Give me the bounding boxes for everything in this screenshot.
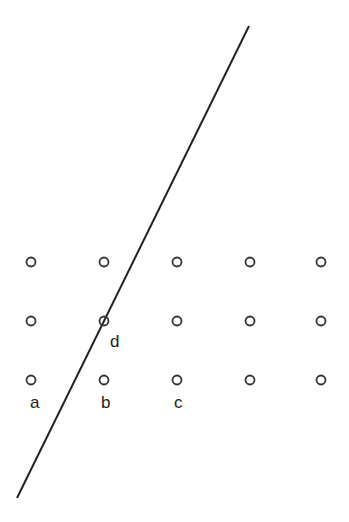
- point-grid: [27, 258, 326, 385]
- grid-point: [173, 376, 182, 385]
- label-c: c: [174, 394, 183, 411]
- diagram-canvas: [0, 0, 349, 522]
- grid-point: [100, 376, 109, 385]
- grid-point: [100, 258, 109, 267]
- grid-point: [317, 258, 326, 267]
- grid-point: [27, 376, 36, 385]
- grid-point: [317, 376, 326, 385]
- grid-point: [27, 317, 36, 326]
- grid-point: [246, 258, 255, 267]
- label-a: a: [30, 394, 39, 411]
- diagonal-line: [17, 26, 249, 498]
- grid-point: [173, 317, 182, 326]
- grid-point: [173, 258, 182, 267]
- grid-point: [317, 317, 326, 326]
- grid-point: [27, 258, 36, 267]
- label-d: d: [110, 333, 119, 350]
- label-b: b: [101, 394, 110, 411]
- grid-point: [246, 317, 255, 326]
- grid-point: [246, 376, 255, 385]
